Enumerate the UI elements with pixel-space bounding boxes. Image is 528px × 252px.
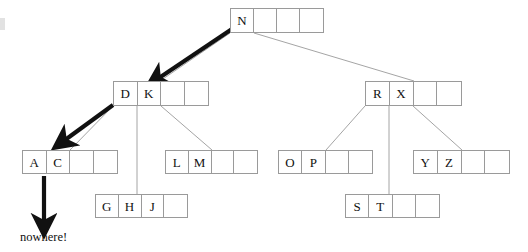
btree-cell-empty bbox=[485, 151, 509, 173]
btree-node-leaf-yz: YZ bbox=[413, 150, 510, 174]
btree-cell-key: R bbox=[366, 82, 390, 105]
btree-cell-key: Y bbox=[414, 151, 438, 173]
edge-layer bbox=[70, 33, 462, 194]
btree-cell-key: X bbox=[390, 82, 414, 105]
btree-node-leaf-ac: AC bbox=[22, 150, 118, 174]
btree-cell-key: M bbox=[189, 151, 212, 173]
btree-cell-empty bbox=[326, 151, 349, 173]
btree-cell-empty bbox=[416, 195, 439, 217]
btree-cell-key: L bbox=[166, 151, 189, 173]
btree-cell-empty bbox=[300, 9, 323, 32]
tree-edge-internal-left-to-leaf-ac bbox=[70, 106, 113, 150]
tree-edge-internal-right-to-leaf-op bbox=[326, 106, 365, 150]
nowhere-label: nowhere! bbox=[20, 230, 67, 245]
tree-edge-internal-right-to-leaf-yz bbox=[413, 106, 462, 150]
btree-cell-empty bbox=[94, 151, 117, 173]
btree-node-internal-right: RX bbox=[365, 81, 462, 106]
btree-cell-empty bbox=[462, 151, 486, 173]
tree-edge-root-to-internal-left bbox=[160, 33, 230, 81]
btree-cell-key: K bbox=[138, 82, 162, 105]
btree-cell-key: S bbox=[346, 195, 369, 217]
btree-cell-empty bbox=[70, 151, 94, 173]
btree-cell-key: G bbox=[96, 195, 119, 217]
btree-cell-empty bbox=[164, 195, 187, 217]
btree-node-leaf-op: OP bbox=[278, 150, 373, 174]
btree-node-leaf-ghj: GHJ bbox=[95, 194, 188, 218]
btree-node-root: N bbox=[230, 8, 324, 33]
tree-edge-internal-left-to-leaf-lm bbox=[161, 106, 212, 150]
tree-edges-and-arrows bbox=[0, 0, 528, 252]
btree-cell-empty bbox=[414, 82, 438, 105]
btree-diagram-canvas: NDKRXACLMOPYZGHJST nowhere! bbox=[0, 0, 528, 252]
btree-cell-empty bbox=[161, 82, 185, 105]
btree-cell-empty bbox=[234, 151, 257, 173]
btree-cell-empty bbox=[212, 151, 235, 173]
btree-cell-key: H bbox=[119, 195, 142, 217]
btree-cell-key: T bbox=[369, 195, 392, 217]
btree-cell-empty bbox=[437, 82, 461, 105]
btree-cell-key: N bbox=[231, 9, 254, 32]
btree-cell-key: D bbox=[114, 82, 138, 105]
btree-cell-key: O bbox=[279, 151, 302, 173]
btree-cell-key: P bbox=[302, 151, 325, 173]
arrow-internal-left-to-leaf-ac bbox=[65, 105, 113, 140]
page-edge-artifact bbox=[0, 18, 5, 30]
tree-edge-root-to-internal-right bbox=[254, 33, 414, 81]
btree-cell-empty bbox=[277, 9, 300, 32]
btree-cell-empty bbox=[349, 151, 372, 173]
btree-cell-empty bbox=[393, 195, 416, 217]
arrow-root-to-internal-left bbox=[159, 29, 232, 78]
btree-cell-key: A bbox=[23, 151, 47, 173]
btree-node-internal-left: DK bbox=[113, 81, 209, 106]
btree-cell-key: C bbox=[47, 151, 71, 173]
btree-cell-empty bbox=[185, 82, 208, 105]
btree-cell-empty bbox=[254, 9, 277, 32]
btree-cell-key: Z bbox=[438, 151, 462, 173]
btree-node-leaf-lm: LM bbox=[165, 150, 258, 174]
btree-cell-key: J bbox=[142, 195, 165, 217]
btree-node-leaf-st: ST bbox=[345, 194, 440, 218]
